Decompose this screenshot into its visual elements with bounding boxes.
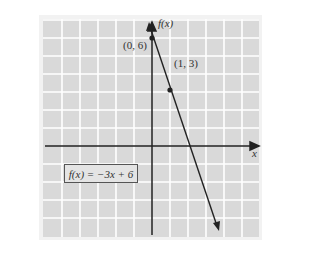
point-1-3 xyxy=(167,87,172,92)
y-axis-label: f(x) xyxy=(158,18,173,29)
equation-text: f(x) = −3x + 6 xyxy=(69,168,133,180)
point-label-1-3: (1, 3) xyxy=(174,58,198,69)
equation-label: f(x) = −3x + 6 xyxy=(64,164,138,183)
x-axis-label: x xyxy=(252,148,257,159)
point-0-6 xyxy=(149,35,154,40)
point-label-0-6: (0, 6) xyxy=(123,40,147,51)
